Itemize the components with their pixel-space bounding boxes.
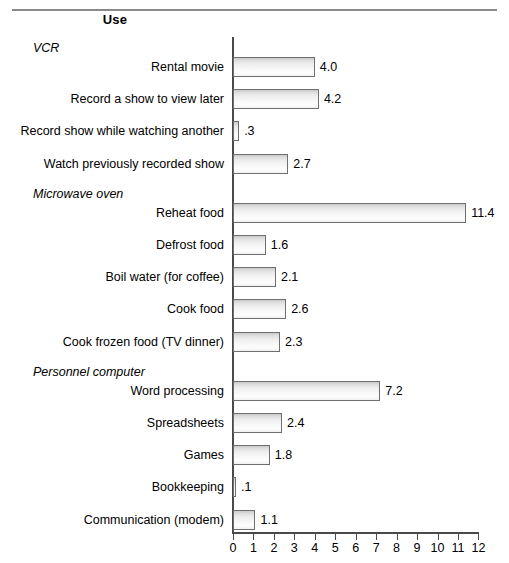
x-axis-tick (335, 534, 336, 540)
bar (233, 154, 288, 174)
bar-row: Record a show to view later4.2 (0, 89, 509, 110)
x-axis-tick (253, 534, 254, 540)
bar-row: Reheat food11.4 (0, 203, 509, 224)
bar-row: Bookkeeping.1 (0, 477, 509, 498)
bar-value-label: 2.4 (287, 415, 304, 432)
bar-row-label: Bookkeeping (0, 479, 224, 496)
x-axis-tick (274, 534, 275, 540)
bar-value-label: 2.6 (291, 301, 308, 318)
bar-group-header-label: Microwave oven (0, 186, 509, 202)
bar-chart-plot: 0123456789101112 VCRRental movie4.0Recor… (0, 0, 509, 563)
bar-value-label: 1.6 (271, 237, 288, 254)
bar (233, 57, 315, 77)
bar-row: Spreadsheets2.4 (0, 413, 509, 434)
bar-row-label: Cook food (0, 301, 224, 318)
bar (233, 89, 319, 109)
bar-row-label: Games (0, 447, 224, 464)
bar (233, 445, 270, 465)
bar-value-label: 7.2 (385, 383, 402, 400)
bar-group-header-label: VCR (0, 40, 509, 56)
bar-row-label: Word processing (0, 383, 224, 400)
x-axis-tick (294, 534, 295, 540)
bar-row-label: Cook frozen food (TV dinner) (0, 334, 224, 351)
x-axis-tick (438, 534, 439, 540)
bar (233, 332, 280, 352)
bar-row-label: Communication (modem) (0, 512, 224, 529)
bar-row: Communication (modem)1.1 (0, 510, 509, 531)
bar-value-label: 4.0 (320, 59, 337, 76)
bar-value-label: 2.7 (293, 156, 310, 173)
bar-row-label: Record show while watching another (0, 123, 224, 140)
x-axis-tick (315, 534, 316, 540)
bar-group-header: Personnel computer (0, 364, 509, 380)
bar-row-label: Rental movie (0, 59, 224, 76)
x-axis-tick (376, 534, 377, 540)
bar (233, 413, 282, 433)
bar-row-label: Reheat food (0, 205, 224, 222)
bar (233, 299, 286, 319)
bar (233, 121, 239, 141)
bar-row: Defrost food1.6 (0, 235, 509, 256)
bar-group-header: Microwave oven (0, 186, 509, 202)
bar-value-label: 4.2 (324, 91, 341, 108)
bar (233, 203, 466, 223)
x-axis-tick (356, 534, 357, 540)
bar-value-label: 11.4 (471, 205, 494, 222)
bar-value-label: 2.3 (285, 334, 302, 351)
bar-row-label: Spreadsheets (0, 415, 224, 432)
x-axis-tick (417, 534, 418, 540)
bar-row: Cook frozen food (TV dinner)2.3 (0, 332, 509, 353)
bar-value-label: .1 (241, 479, 251, 496)
bar-row-label: Watch previously recorded show (0, 156, 224, 173)
bar-row: Rental movie4.0 (0, 57, 509, 78)
x-axis-tick-label: 12 (466, 541, 490, 555)
bar (233, 235, 266, 255)
bar-row-label: Record a show to view later (0, 91, 224, 108)
bar (233, 267, 276, 287)
bar-row: Word processing7.2 (0, 381, 509, 402)
bar-row: Record show while watching another.3 (0, 121, 509, 142)
bar-value-label: 2.1 (281, 269, 298, 286)
bar-group-header-label: Personnel computer (0, 364, 509, 380)
bar-value-label: .3 (244, 123, 254, 140)
bar-row: Boil water (for coffee)2.1 (0, 267, 509, 288)
bar (233, 510, 255, 530)
bar-value-label: 1.1 (260, 512, 277, 529)
bar-group-header: VCR (0, 40, 509, 56)
x-axis-tick (233, 534, 234, 540)
x-axis-tick (458, 534, 459, 540)
bar-row: Watch previously recorded show2.7 (0, 154, 509, 175)
bar-row-label: Boil water (for coffee) (0, 269, 224, 286)
bar-value-label: 1.8 (275, 447, 292, 464)
bar-row: Games1.8 (0, 445, 509, 466)
x-axis-tick (478, 534, 479, 540)
bar (233, 381, 380, 401)
bar-row: Cook food2.6 (0, 299, 509, 320)
bar (233, 477, 236, 497)
x-axis-tick (397, 534, 398, 540)
bar-row-label: Defrost food (0, 237, 224, 254)
